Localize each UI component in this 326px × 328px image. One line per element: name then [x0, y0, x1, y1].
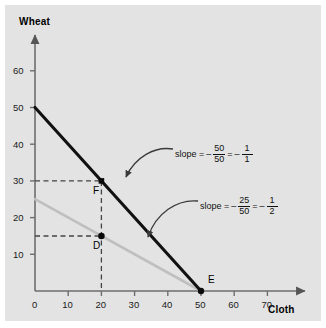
annotation-slope-black-minus1: – [206, 149, 211, 159]
annotation-slope-gray: slope = – 25 50 = – 1 2 [200, 196, 278, 217]
annotation-slope-black: slope = – 50 50 = – 1 1 [175, 144, 253, 165]
x-tick-label-70: 70 [261, 299, 272, 310]
annotation-slope-black-minus2: – [235, 149, 240, 159]
annotation-slope-gray-denominator1: 50 [238, 207, 250, 216]
guide-lines [35, 181, 101, 291]
y-tick-label-50: 50 [13, 102, 24, 113]
y-tick-label-40: 40 [13, 139, 24, 150]
annotation-slope-black-denominator2: 1 [244, 155, 251, 164]
annotation-slope-gray-fraction2: 1 2 [267, 196, 278, 217]
annotation-slope-gray-minus1: – [231, 201, 236, 211]
annotation-slope-black-numerator1: 50 [213, 144, 225, 153]
annotation-slope-black-prefix: slope = [175, 149, 204, 159]
chart-figure: Wheat Cloth 60 50 40 30 20 10 0 10 20 30… [0, 0, 326, 328]
plot-canvas [5, 5, 321, 321]
annotation-slope-black-fraction1: 50 50 [213, 144, 225, 165]
annotation-slope-gray-numerator1: 25 [238, 196, 250, 205]
point-label-d: D [93, 240, 100, 251]
annotation-slope-black-numerator2: 1 [244, 144, 251, 153]
y-tick-label-20: 20 [13, 212, 24, 223]
annotation-slope-black-denominator1: 50 [213, 155, 225, 164]
x-tick-label-60: 60 [228, 299, 239, 310]
annotation-slope-gray-denominator2: 2 [269, 207, 276, 216]
annotation-slope-gray-prefix: slope = [200, 201, 229, 211]
x-tick-label-40: 40 [162, 299, 173, 310]
annotation-slope-black-equals: = [227, 149, 232, 159]
y-tick-label-60: 60 [13, 65, 24, 76]
series-line-black [35, 108, 201, 292]
annotation-slope-gray-minus2: – [260, 201, 265, 211]
x-tick-label-0: 0 [32, 299, 37, 310]
annotation-arrow-black [126, 149, 173, 177]
x-tick-label-20: 20 [95, 299, 106, 310]
annotation-slope-gray-numerator2: 1 [269, 196, 276, 205]
y-tick-label-10: 10 [13, 249, 24, 260]
data-point-e [198, 288, 204, 294]
point-label-e: E [208, 274, 215, 285]
data-point-d [98, 233, 105, 240]
y-axis-title: Wheat [19, 16, 50, 27]
x-tick-label-50: 50 [195, 299, 206, 310]
x-axis-title: Cloth [268, 304, 295, 315]
x-tick-label-30: 30 [129, 299, 140, 310]
data-point-f [99, 178, 105, 184]
point-label-f: F [93, 185, 99, 196]
plot-panel: Wheat Cloth 60 50 40 30 20 10 0 10 20 30… [5, 5, 321, 321]
series-line-gray [35, 199, 201, 291]
annotation-slope-gray-fraction1: 25 50 [238, 196, 250, 217]
y-tick-label-30: 30 [13, 175, 24, 186]
x-tick-label-10: 10 [62, 299, 73, 310]
annotation-arrow-gray [148, 201, 198, 237]
annotation-slope-gray-equals: = [252, 201, 257, 211]
annotation-slope-black-fraction2: 1 1 [242, 144, 253, 165]
